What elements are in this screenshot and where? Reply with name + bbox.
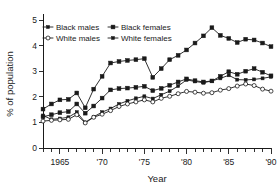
- data-point-black-females: [109, 88, 113, 92]
- data-point-white-males: [49, 118, 53, 122]
- data-point-black-males: [134, 58, 138, 62]
- x-axis-title: Year: [147, 173, 166, 184]
- legend-label: White males: [56, 34, 100, 43]
- data-point-black-males: [50, 102, 54, 106]
- legend-label: Black males: [56, 23, 99, 32]
- data-point-black-females: [92, 104, 96, 108]
- data-point-black-females: [126, 86, 130, 90]
- data-point-black-males: [227, 37, 231, 41]
- data-point-black-males: [218, 33, 222, 37]
- data-point-white-females: [227, 74, 230, 77]
- data-point-black-females: [244, 69, 248, 73]
- data-point-white-males: [201, 91, 205, 95]
- data-point-black-males: [244, 37, 248, 41]
- data-point-black-females: [117, 87, 121, 91]
- x-tick-label: '85: [223, 157, 234, 167]
- data-point-white-females: [244, 78, 247, 81]
- data-point-black-males: [126, 59, 130, 63]
- y-tick-label: 4: [32, 41, 37, 51]
- data-point-white-males: [83, 121, 87, 125]
- y-axis-title: % of population: [4, 51, 15, 117]
- data-point-white-females: [270, 75, 273, 78]
- data-point-black-females: [50, 113, 54, 117]
- data-point-white-males: [159, 96, 163, 100]
- data-point-black-females: [227, 70, 231, 74]
- data-point-white-females: [261, 77, 264, 80]
- data-point-white-males: [75, 113, 79, 117]
- data-point-white-males: [117, 105, 121, 109]
- line-chart: 0123451965'70'75'80'85'90Year% of popula…: [0, 0, 277, 187]
- legend-marker: [111, 25, 115, 29]
- data-point-black-females: [83, 111, 87, 115]
- data-point-black-males: [168, 58, 172, 62]
- data-point-black-females: [168, 83, 172, 87]
- data-point-black-males: [176, 53, 180, 57]
- data-point-black-males: [252, 38, 256, 42]
- data-point-white-males: [168, 94, 172, 98]
- data-point-white-males: [58, 118, 62, 122]
- data-point-white-males: [176, 92, 180, 96]
- data-point-black-females: [75, 102, 79, 106]
- data-point-black-males: [92, 87, 96, 91]
- legend-marker: [46, 36, 50, 40]
- data-point-black-males: [75, 91, 79, 95]
- x-tick-label: '70: [97, 157, 108, 167]
- data-point-white-females: [194, 80, 197, 83]
- data-point-white-females: [160, 93, 163, 96]
- x-tick-label: 1965: [50, 157, 69, 167]
- y-tick-label: 2: [32, 92, 37, 102]
- data-point-white-females: [42, 114, 45, 117]
- data-point-black-males: [269, 45, 273, 49]
- data-point-white-males: [92, 115, 96, 119]
- data-point-white-males: [185, 89, 189, 93]
- data-point-black-females: [235, 72, 239, 76]
- data-point-black-females: [58, 111, 62, 115]
- data-point-white-males: [269, 89, 273, 93]
- data-point-white-males: [125, 102, 129, 106]
- data-point-black-females: [261, 70, 265, 74]
- y-tick-label: 0: [32, 143, 37, 153]
- data-point-black-males: [261, 41, 265, 45]
- data-point-black-females: [252, 67, 256, 71]
- data-point-black-females: [134, 85, 138, 89]
- data-point-white-females: [219, 77, 222, 80]
- data-point-black-females: [100, 96, 104, 100]
- x-tick-label: '80: [181, 157, 192, 167]
- data-point-white-females: [236, 78, 239, 81]
- legend-label: Black females: [121, 23, 171, 32]
- legend-marker: [112, 37, 115, 40]
- data-point-black-males: [142, 57, 146, 61]
- data-point-black-males: [210, 26, 214, 30]
- data-point-white-males: [109, 109, 113, 113]
- data-point-white-males: [210, 91, 214, 95]
- data-point-black-females: [66, 110, 70, 114]
- data-point-black-females: [142, 84, 146, 88]
- data-point-white-females: [202, 81, 205, 84]
- data-point-white-males: [235, 84, 239, 88]
- data-point-black-males: [109, 61, 113, 65]
- data-point-white-males: [41, 119, 45, 123]
- data-point-white-females: [185, 78, 188, 81]
- data-point-black-males: [202, 34, 206, 38]
- data-point-white-males: [252, 84, 256, 88]
- y-tick-label: 1: [32, 117, 37, 127]
- data-point-white-males: [134, 100, 138, 104]
- y-tick-label: 3: [32, 66, 37, 76]
- y-tick-label: 5: [32, 15, 37, 25]
- data-point-black-males: [185, 48, 189, 52]
- data-point-black-females: [151, 89, 155, 93]
- data-point-white-females: [210, 79, 213, 82]
- data-point-white-females: [134, 97, 137, 100]
- legend-marker: [47, 26, 50, 29]
- data-point-white-males: [227, 87, 231, 91]
- data-point-white-males: [193, 90, 197, 94]
- data-point-black-males: [235, 41, 239, 45]
- x-tick-label: '75: [139, 157, 150, 167]
- chart-figure: 0123451965'70'75'80'85'90Year% of popula…: [0, 0, 277, 187]
- data-point-black-females: [159, 86, 163, 90]
- data-point-white-males: [142, 98, 146, 102]
- x-tick-label: '90: [265, 157, 276, 167]
- data-point-black-males: [66, 97, 70, 101]
- data-point-white-males: [244, 82, 248, 86]
- data-point-white-males: [100, 112, 104, 116]
